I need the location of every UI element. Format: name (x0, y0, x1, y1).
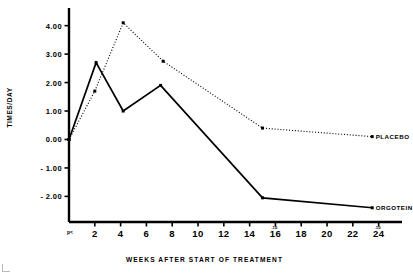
y-axis-title: TIMES/DAY (6, 78, 13, 138)
series-label-placebo: PLACEBO (376, 133, 410, 140)
series-label-orgotein: ORGOTEIN (376, 204, 413, 211)
data-point-placebo (122, 21, 125, 24)
page-corner-mark (2, 264, 10, 272)
data-point-placebo (261, 127, 264, 130)
x-tick-label: 12 (212, 228, 236, 239)
data-point-placebo (162, 60, 165, 63)
y-tick-label: - 1.00 (16, 164, 62, 173)
x-tick-label: 20 (315, 228, 339, 239)
x-tick-label: 8 (160, 228, 184, 239)
p-value-axis-annotation: p< (67, 229, 73, 235)
data-point-orgotein (122, 110, 125, 113)
data-point-orgotein (95, 61, 98, 64)
x-tick-label: 22 (341, 228, 365, 239)
x-tick-label: 4 (109, 228, 133, 239)
x-axis-title: WEEKS AFTER START OF TREATMENT (0, 256, 409, 263)
x-tick-label: 10 (186, 228, 210, 239)
y-tick-label: 4.00 (16, 22, 62, 31)
series-line-orgotein (69, 63, 372, 208)
y-tick-label: 3.00 (16, 50, 62, 59)
data-point-orgotein (68, 138, 71, 141)
x-tick-label: 14 (238, 228, 262, 239)
significance-annotation: .10 (271, 225, 277, 230)
series-line-placebo (69, 23, 372, 140)
x-tick-label: 2 (83, 228, 107, 239)
data-point-placebo (93, 90, 96, 93)
data-point-placebo (371, 135, 374, 138)
significance-annotation: .10 (375, 225, 381, 230)
y-tick-label: - 2.00 (16, 192, 62, 201)
x-tick-label: 6 (134, 228, 158, 239)
data-point-orgotein (159, 84, 162, 87)
x-tick-label: 18 (289, 228, 313, 239)
data-point-orgotein (371, 206, 374, 209)
data-point-orgotein (261, 196, 264, 199)
y-tick-label: 2.00 (16, 79, 62, 88)
y-tick-label: 1.00 (16, 107, 62, 116)
y-tick-label: 0.00 (16, 135, 62, 144)
